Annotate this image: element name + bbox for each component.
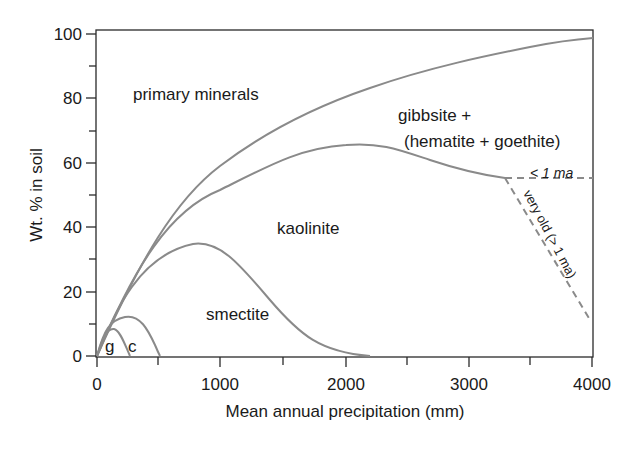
x-tick-label: 2000 xyxy=(327,375,365,394)
x-tick-labels: 0 1000 2000 3000 4000 xyxy=(92,375,611,394)
y-tick-label: 60 xyxy=(63,154,82,173)
label-g: g xyxy=(105,337,114,356)
plot-frame xyxy=(96,30,593,357)
label-primary-minerals: primary minerals xyxy=(133,85,259,104)
label-young: < 1 ma xyxy=(530,165,573,181)
y-tick-label: 80 xyxy=(63,89,82,108)
label-c: c xyxy=(128,337,137,356)
y-tick-label: 0 xyxy=(73,347,82,366)
y-tick-label: 20 xyxy=(63,283,82,302)
chart: 0 20 40 60 80 100 0 1000 2000 3000 4000 … xyxy=(0,0,631,454)
smectite-top-curve xyxy=(97,244,370,356)
y-tick-label: 40 xyxy=(63,218,82,237)
x-axis xyxy=(97,357,592,367)
x-tick-label: 0 xyxy=(92,375,101,394)
y-tick-label: 100 xyxy=(54,25,82,44)
x-tick-label: 1000 xyxy=(201,375,239,394)
old-dashed-line xyxy=(505,178,590,320)
y-axis xyxy=(86,34,96,356)
x-axis-title: Mean annual precipitation (mm) xyxy=(225,402,464,421)
label-hematite-goethite: (hematite + goethite) xyxy=(404,132,560,151)
x-tick-label: 3000 xyxy=(450,375,488,394)
x-tick-label: 4000 xyxy=(573,375,611,394)
label-very-old: very old (> 1 ma) xyxy=(520,187,579,280)
label-gibbsite: gibbsite + xyxy=(398,106,471,125)
y-axis-title: Wt. % in soil xyxy=(27,148,46,242)
y-tick-labels: 0 20 40 60 80 100 xyxy=(54,25,82,366)
kaolinite-top-curve xyxy=(97,144,505,356)
label-smectite: smectite xyxy=(206,305,269,324)
label-kaolinite: kaolinite xyxy=(277,219,339,238)
